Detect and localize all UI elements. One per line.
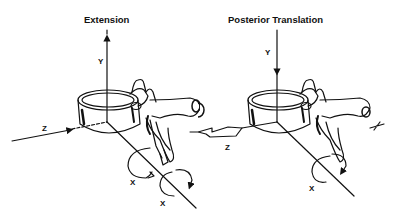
vertebra-translation-drawing (198, 0, 398, 212)
x-axis-line (107, 122, 196, 208)
rotation-arrow (312, 156, 330, 182)
panel-extension: Extension Y Z X X (0, 0, 200, 212)
rotation-arrow-upper (128, 148, 152, 178)
x-axis-line (277, 122, 354, 196)
z-translation-arrow (198, 127, 242, 137)
z-axis-arrow (12, 130, 70, 141)
panel-posterior-translation: Posterior Translation Y Z X (198, 0, 398, 212)
vertebra-extension-drawing (0, 0, 200, 212)
